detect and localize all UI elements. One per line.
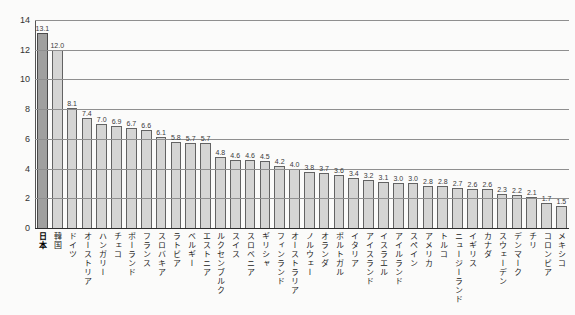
bar-value-label: 13.1 [36,25,50,32]
bar [37,33,48,228]
bar-column: 13.1 [35,20,50,228]
bar-column: 2.2 [510,20,525,228]
bar-value-label: 3.6 [334,167,344,174]
x-tick-cell: ポーランド [124,232,139,312]
bar [378,182,389,228]
bar [260,161,271,228]
bar-value-label: 6.1 [156,129,166,136]
x-tick-cell: オーストリア [79,232,94,312]
x-tick-label: イスラエル [379,232,388,312]
x-tick-cell: アイスランド [361,232,376,312]
x-tick-cell: トルコ [435,232,450,312]
bar-column: 6.1 [154,20,169,228]
x-tick-cell: チェコ [109,232,124,312]
bar-column: 6.6 [139,20,154,228]
x-tick-label: デンマーク [512,232,521,312]
bar-column: 3.0 [406,20,421,228]
x-tick-label: ポルトガル [334,232,343,312]
bar-column: 1.5 [554,20,569,228]
x-tick-label: ルクセンブルク [216,232,225,312]
x-tick-label: イギリス [468,232,477,312]
bar-value-label: 2.3 [497,186,507,193]
bar-value-label: 5.8 [171,134,181,141]
bar [482,189,493,228]
bar [141,130,152,228]
bar [171,142,182,228]
bar [82,118,93,228]
bar-column: 8.1 [65,20,80,228]
bar-value-label: 6.9 [112,118,122,125]
x-axis-line [35,228,569,229]
bar-value-label: 4.6 [245,152,255,159]
bar-value-label: 12.0 [50,42,64,49]
x-tick-cell: カナダ [480,232,495,312]
x-tick-cell: イタリア [346,232,361,312]
bar-column: 2.8 [421,20,436,228]
y-tick-label: 2 [4,193,30,203]
x-tick-label: スロバキア [157,232,166,312]
bar-value-label: 2.6 [468,181,478,188]
bar-column: 4.8 [213,20,228,228]
bar-value-label: 5.7 [201,135,211,142]
bar-column: 4.5 [257,20,272,228]
x-tick-cell: ハンガリー [94,232,109,312]
x-tick-label: フランス [142,232,151,312]
bar [200,143,211,228]
x-tick-cell: ギリシャ [257,232,272,312]
bar-value-label: 5.7 [186,135,196,142]
bar-chart-figure: 02468101214 13.112.08.17.47.06.96.76.66.… [0,0,575,315]
x-tick-cell: オーストラリア [287,232,302,312]
bar [215,157,226,228]
bar-value-label: 4.2 [275,158,285,165]
x-tick-cell: 日本 [35,232,50,312]
bar-value-label: 3.8 [304,164,314,171]
bar-value-label: 4.8 [215,149,225,156]
x-tick-cell: スウェーデン [495,232,510,312]
bar [156,137,167,228]
bar-column: 4.6 [228,20,243,228]
x-tick-cell: アイルランド [391,232,406,312]
bar [526,197,537,228]
bar-value-label: 3.4 [349,170,359,177]
bar-column: 3.2 [361,20,376,228]
bar-value-label: 3.2 [364,172,374,179]
x-tick-label: ニュージーランド [453,232,462,312]
x-tick-cell: チリ [524,232,539,312]
plot-area: 13.112.08.17.47.06.96.76.66.15.85.75.74.… [35,20,569,313]
bar-column: 12.0 [50,20,65,228]
x-tick-label: イタリア [349,232,358,312]
x-tick-cell: スロベニア [243,232,258,312]
x-tick-cell: スイス [228,232,243,312]
x-tick-cell: ドイツ [65,232,80,312]
x-tick-label: チェコ [112,232,121,312]
bar-value-label: 4.5 [260,153,270,160]
x-tick-cell: メキシコ [554,232,569,312]
bar-column: 1.7 [539,20,554,228]
bar-value-label: 2.8 [423,178,433,185]
x-tick-label: スペイン [409,232,418,312]
bar-column: 2.1 [524,20,539,228]
bar-column: 2.6 [480,20,495,228]
x-tick-cell: イスラエル [376,232,391,312]
bar-value-label: 3.0 [393,175,403,182]
bar [348,178,359,229]
bar-column: 3.4 [346,20,361,228]
y-tick-label: 8 [4,104,30,114]
x-tick-cell: アメリカ [421,232,436,312]
x-tick-cell: ニュージーランド [450,232,465,312]
bar [289,169,300,228]
x-axis-labels: 日本韓国ドイツオーストリアハンガリーチェコポーランドフランススロバキアラトビアベ… [35,232,569,312]
y-tick-label: 4 [4,164,30,174]
x-tick-label: エストニア [201,232,210,312]
bar-value-label: 1.5 [557,198,567,205]
bar-value-label: 7.0 [97,116,107,123]
x-tick-label: アイルランド [394,232,403,312]
bar [319,173,330,228]
bar-column: 3.8 [302,20,317,228]
y-tick-label: 14 [4,15,30,25]
bar [185,143,196,228]
x-tick-cell: コロンビア [539,232,554,312]
bar [512,195,523,228]
y-tick-label: 6 [4,134,30,144]
x-tick-label: ラトビア [171,232,180,312]
